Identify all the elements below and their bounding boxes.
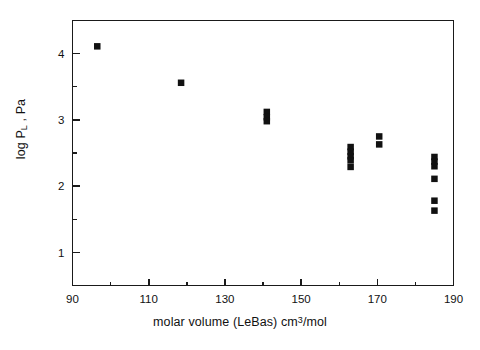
x-tick-label: 190 (444, 293, 463, 305)
x-tick-label: 110 (140, 293, 158, 305)
y-tick-label: 4 (58, 48, 65, 60)
x-tick-label: 90 (66, 293, 79, 305)
y-axis-label-subscript: L (19, 125, 29, 130)
scatter-plot: 90110130150170190 1234 (0, 0, 480, 350)
x-axis-label: molar volume (LeBas) cm3/mol (0, 313, 480, 330)
x-axis-label-suffix: /mol (303, 315, 327, 329)
y-axis-label: log PL , Pa (14, 59, 32, 199)
data-point (178, 80, 185, 87)
y-axis-label-prefix: log P (14, 130, 28, 159)
chart-figure: 90110130150170190 1234 molar volume (LeB… (0, 0, 480, 350)
data-point (94, 43, 101, 50)
x-axis-ticks (73, 279, 454, 286)
data-point-markers (94, 43, 438, 214)
data-point (431, 207, 438, 214)
x-axis-label-prefix: molar volume (LeBas) cm (153, 315, 298, 329)
y-tick-label: 1 (58, 247, 64, 259)
data-point (376, 141, 383, 148)
data-point (264, 118, 271, 125)
y-axis-ticks (73, 54, 80, 253)
y-tick-label: 3 (58, 114, 64, 126)
data-point (431, 197, 438, 204)
data-point (347, 164, 354, 171)
y-axis-label-suffix: , Pa (14, 99, 28, 125)
x-axis-tick-labels: 90110130150170190 (66, 293, 463, 305)
plot-frame (73, 21, 454, 286)
y-axis-tick-labels: 1234 (58, 48, 65, 259)
data-point (431, 176, 438, 183)
x-tick-label: 170 (368, 293, 387, 305)
data-point (431, 163, 438, 170)
x-tick-label: 150 (292, 293, 311, 305)
data-point (376, 133, 383, 140)
x-tick-label: 130 (215, 293, 234, 305)
data-point (347, 157, 354, 164)
y-tick-label: 2 (58, 180, 64, 192)
